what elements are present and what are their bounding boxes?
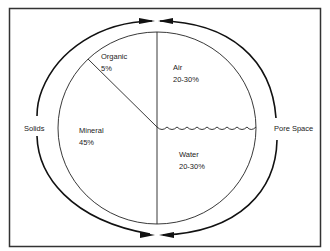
solids-arc-bottom (37, 136, 150, 234)
segment-mineral-value: 45% (79, 138, 94, 148)
segment-mineral-name: Mineral (79, 126, 104, 136)
segment-water-name: Water (179, 150, 199, 160)
arrowhead-top-right-icon (158, 18, 173, 24)
arrowhead-bottom-right-icon (159, 232, 174, 238)
segment-air-value: 20-30% (173, 75, 199, 85)
segment-organic-value: 5% (101, 64, 112, 74)
outer-label-pore-space: Pore Space (274, 124, 313, 134)
air-water-boundary (157, 127, 256, 130)
segment-air-name: Air (173, 63, 182, 73)
organic-mineral-divider (88, 59, 157, 127)
arrowhead-top-left-icon (139, 18, 155, 24)
solids-arc-top (37, 21, 152, 116)
segment-water-value: 20-30% (179, 162, 205, 172)
outer-label-solids: Solids (24, 124, 44, 134)
segment-organic-name: Organic (101, 52, 127, 62)
